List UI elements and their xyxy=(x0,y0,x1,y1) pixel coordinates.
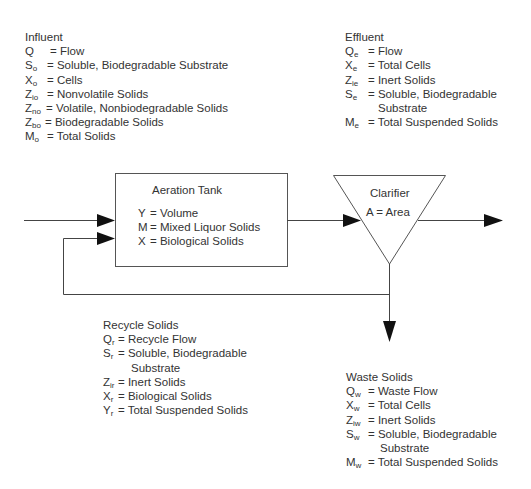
recycle-item-continuation: Substrate xyxy=(103,361,178,375)
waste-item: Sw= Soluble, Biodegradable xyxy=(346,427,413,441)
effluent-item: Xe= Total Cells xyxy=(345,58,384,72)
influent-legend: Influent Q= Flow So= Soluble, Biodegrada… xyxy=(25,30,63,144)
effluent-arrow-icon xyxy=(484,214,503,227)
waste-arrow-icon xyxy=(383,321,396,342)
influent-arrow-icon xyxy=(97,214,115,227)
recycle-arrow-icon xyxy=(97,232,115,245)
recycle-item: Zir= Inert Solids xyxy=(103,375,178,389)
recycle-item: Qr= Recycle Flow xyxy=(103,332,178,346)
recycle-title: Recycle Solids xyxy=(103,318,178,332)
clarifier-item: A = Area xyxy=(366,205,410,219)
waste-title: Waste Solids xyxy=(346,370,413,384)
waste-item-continuation: Substrate xyxy=(346,441,413,455)
recycle-legend: Recycle Solids Qr= Recycle Flow Sr= Solu… xyxy=(103,318,178,417)
recycle-item: Yr= Total Suspended Solids xyxy=(103,403,178,417)
influent-item: Xo= Cells xyxy=(25,73,63,87)
aeration-tank-item: X= Biological Solids xyxy=(138,234,148,248)
influent-item: Zio= Nonvolatile Solids xyxy=(25,87,63,101)
effluent-item: Zie= Inert Solids xyxy=(345,73,384,87)
effluent-item: Se= Soluble, Biodegradable xyxy=(345,87,384,101)
aeration-tank-item: Y= Volume xyxy=(138,206,148,220)
waste-legend: Waste Solids Qw= Waste Flow Xw= Total Ce… xyxy=(346,370,413,469)
influent-item: Mo= Total Solids xyxy=(25,129,63,143)
aeration-tank-item: M= Mixed Liquor Solids xyxy=(138,220,148,234)
influent-item: Q= Flow xyxy=(25,44,63,58)
effluent-item: Qe= Flow xyxy=(345,44,384,58)
waste-item: Qw= Waste Flow xyxy=(346,384,413,398)
effluent-item-continuation: Substrate xyxy=(345,101,384,115)
influent-item: Zno= Volatile, Nonbiodegradable Solids xyxy=(25,101,63,115)
aeration-tank-legend: Y= Volume M= Mixed Liquor Solids X= Biol… xyxy=(138,206,148,249)
effluent-legend: Effluent Qe= Flow Xe= Total Cells Zie= I… xyxy=(345,30,384,129)
clarifier-title: Clarifier xyxy=(370,186,410,200)
influent-item: So= Soluble, Biodegradable Substrate xyxy=(25,58,63,72)
recycle-item: Xr= Biological Solids xyxy=(103,389,178,403)
waste-item: Mw= Total Suspended Solids xyxy=(346,455,413,469)
influent-title: Influent xyxy=(25,30,63,44)
effluent-title: Effluent xyxy=(345,30,384,44)
recycle-item: Sr= Soluble, Biodegradable xyxy=(103,346,178,360)
aeration-tank-title: Aeration Tank xyxy=(152,183,222,197)
effluent-item: Me= Total Suspended Solids xyxy=(345,115,384,129)
waste-item: Ziw= Inert Solids xyxy=(346,413,413,427)
waste-item: Xw= Total Cells xyxy=(346,398,413,412)
influent-item: Zbo= Biodegradable Solids xyxy=(25,115,63,129)
clarifier-inlet-arrow-icon xyxy=(343,214,361,227)
